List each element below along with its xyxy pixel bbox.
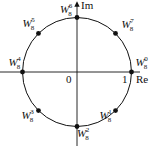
root-point-3	[36, 108, 41, 113]
unit-circle-diagram: Im Re 0 1 W80W81W82W83W84W85W86W87	[0, 0, 155, 152]
root-label-3: W83	[21, 108, 34, 124]
unit-label: 1	[122, 73, 128, 85]
root-label-6: W86	[60, 2, 73, 18]
root-point-0	[129, 70, 134, 75]
root-point-7	[113, 31, 118, 36]
root-label-4: W84	[9, 55, 22, 71]
imag-axis-label: Im	[81, 0, 94, 11]
root-point-4	[20, 70, 25, 75]
root-label-2: W82	[77, 126, 90, 142]
origin-label: 0	[66, 73, 72, 85]
root-point-6	[75, 15, 80, 20]
root-label-7: W87	[122, 17, 135, 33]
root-label-0: W80	[136, 55, 149, 71]
root-point-5	[36, 31, 41, 36]
root-point-1	[113, 108, 118, 113]
real-axis-label: Re	[136, 73, 148, 85]
root-label-5: W85	[22, 16, 35, 32]
roots-layer: W80W81W82W83W84W85W86W87	[9, 2, 149, 142]
